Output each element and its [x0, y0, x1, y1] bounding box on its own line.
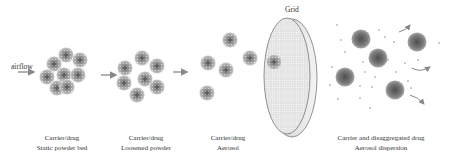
aerosol-clusters [199, 32, 258, 101]
loosened-powder-clusters [116, 50, 165, 103]
stage-label-line1: Carrier/drug [198, 133, 258, 143]
cluster-at-grid [266, 54, 282, 70]
airflow-label: airflow [11, 62, 33, 71]
grid-mesh-icon [264, 18, 317, 137]
carrier-particles [336, 30, 427, 100]
stage-label-aerosol-dispersion: Carrier and disaggregated drug Aerosol d… [326, 133, 436, 153]
static-powder-bed-cluster [39, 47, 88, 96]
stage-label-static-powder-bed: Carrier/drug Static powder bed [30, 133, 94, 153]
stage-label-line2: Aerosol [198, 143, 258, 153]
stage-label-line1: Carrier and disaggregated drug [326, 133, 436, 143]
stage-label-line1: Carrier/drug [30, 133, 94, 143]
stage-label-line2: Static powder bed [30, 143, 94, 153]
stage-label-loosened-powder: Carrier/drug Loosened powder [114, 133, 178, 153]
stage-label-aerosol: Carrier/drug Aerosol [198, 133, 258, 153]
stage-label-line1: Carrier/drug [114, 133, 178, 143]
grid-label: Grid [285, 5, 299, 14]
stage-label-line2: Loosened powder [114, 143, 178, 153]
stage-label-line2: Aerosol dispersion [326, 143, 436, 153]
